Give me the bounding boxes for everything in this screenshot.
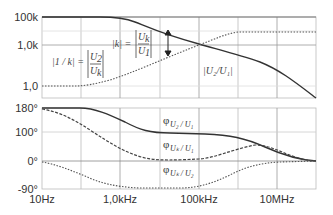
svg-text:k: k	[145, 33, 150, 44]
svg-text:1: 1	[145, 47, 150, 58]
svg-text:U₂ / U₁: U₂ / U₁	[170, 120, 194, 129]
bode-plot: 100k 1,0k 1,0 |1 / k| = U 2 U k |k| = U …	[0, 0, 333, 215]
y-tick-0: 0°	[27, 155, 38, 167]
svg-text:k: k	[97, 67, 102, 78]
svg-text:|k| =: |k| =	[112, 38, 131, 49]
gain-label: |U₂/U₁|	[203, 65, 233, 76]
y-tick-180: 180°	[15, 102, 38, 114]
x-tick-10hz: 10Hz	[29, 193, 55, 205]
x-tick-1khz: 1,0kHz	[103, 193, 137, 205]
magnitude-plot: 100k 1,0k 1,0 |1 / k| = U 2 U k |k| = U …	[14, 11, 316, 98]
svg-text:φ: φ	[163, 163, 169, 175]
svg-text:2: 2	[97, 53, 102, 64]
y-tick-1k: 1,0k	[17, 39, 38, 51]
y-tick-100: 100°	[15, 126, 38, 138]
y-tick-100k: 100k	[14, 11, 38, 23]
svg-text:|1 / k| =: |1 / k| =	[52, 56, 84, 67]
svg-text:φ: φ	[163, 138, 169, 150]
svg-text:Uₖ / U₂: Uₖ / U₂	[170, 169, 194, 178]
x-tick-10mhz: 10MHz	[260, 193, 295, 205]
y-tick-1: 1,0	[23, 80, 38, 92]
svg-text:φ: φ	[163, 114, 169, 126]
phase-plot: 180° 100° 0° -90° φ U₂ / U₁ φ Uₖ / U₁ φ …	[15, 102, 316, 195]
svg-text:Uₖ / U₁: Uₖ / U₁	[170, 144, 194, 153]
x-tick-100khz: 100kHz	[180, 193, 217, 205]
